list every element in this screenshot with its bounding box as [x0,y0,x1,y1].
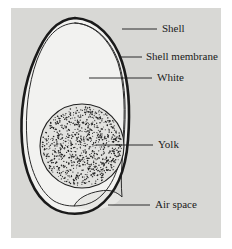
label-air-space: Air space [155,198,197,210]
label-shell-membrane: Shell membrane [146,50,218,62]
label-yolk: Yolk [158,138,179,150]
label-white: White [157,71,184,83]
egg-diagram-figure: ShellShell membraneWhiteYolkAir space [0,0,232,249]
egg-anatomy-diagram: ShellShell membraneWhiteYolkAir space [0,0,232,249]
yolk-circle [40,104,124,188]
yolk-shape [40,104,124,188]
label-shell: Shell [162,22,185,34]
